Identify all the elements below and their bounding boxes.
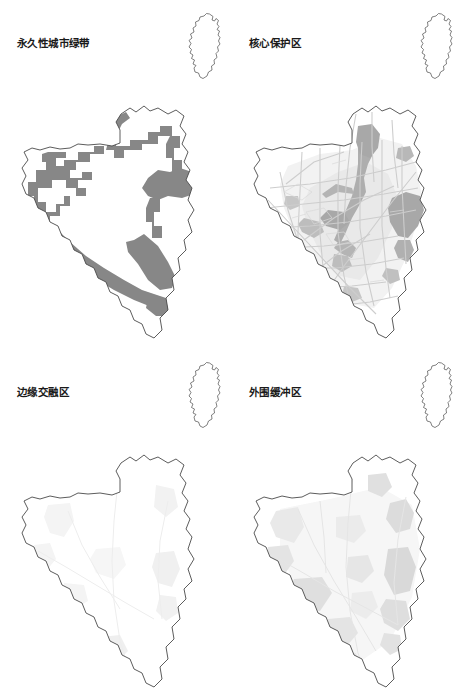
locator-inset-map-3 — [181, 361, 227, 433]
main-map-permanent-urban-green-belt — [8, 92, 230, 342]
inset-boundary-outline-2 — [421, 14, 452, 79]
inset-boundary-outline-4 — [421, 363, 452, 428]
locator-inset-map-4 — [413, 361, 459, 433]
panel-title-permanent-urban-green-belt: 永久性城市绿带 — [17, 36, 90, 50]
main-map-edge-integration-zone — [8, 441, 230, 691]
locator-inset-map-1 — [181, 12, 227, 84]
main-map-core-protection-zone — [240, 92, 462, 342]
panel-outer-buffer-zone: 外围缓冲区 — [232, 349, 463, 698]
panel-title-core-protection-zone: 核心保护区 — [249, 36, 301, 50]
inset-boundary-outline-1 — [189, 14, 220, 79]
panel-permanent-urban-green-belt: 永久性城市绿带 — [0, 0, 231, 349]
main-map-outer-buffer-zone — [240, 441, 462, 691]
panel-edge-integration-zone: 边缘交融区 — [0, 349, 231, 698]
panel-title-edge-integration-zone: 边缘交融区 — [17, 385, 69, 399]
panel-title-outer-buffer-zone: 外围缓冲区 — [249, 385, 301, 399]
locator-inset-map-2 — [413, 12, 459, 84]
panel-core-protection-zone: 核心保护区 — [232, 0, 463, 349]
inset-boundary-outline-3 — [189, 363, 220, 428]
map-figure-grid: 永久性城市绿带 — [0, 0, 463, 698]
